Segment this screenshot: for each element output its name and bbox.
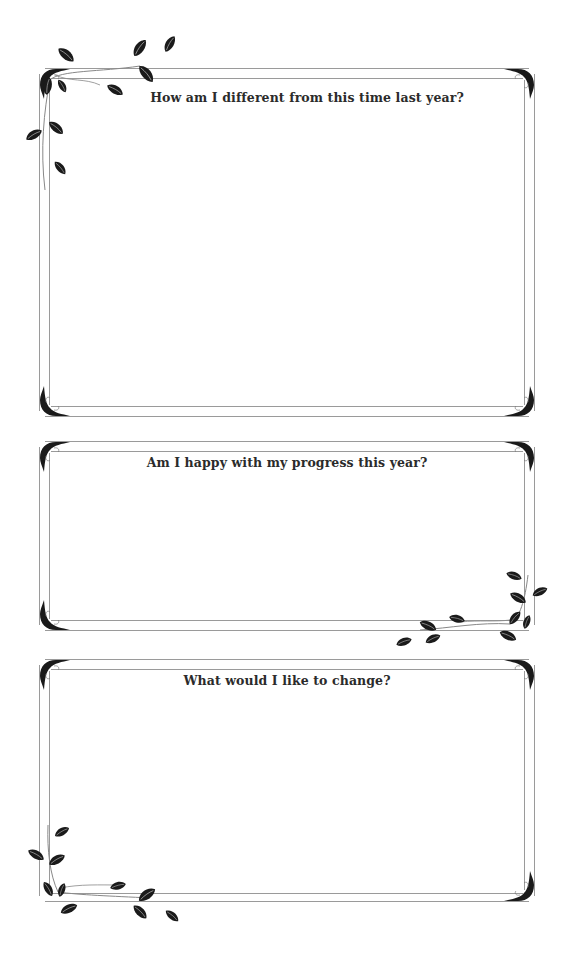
frame-line (45, 630, 529, 631)
frame-line (534, 447, 535, 625)
frame-line (39, 447, 40, 625)
frame-line (45, 441, 529, 442)
frame-line (51, 620, 523, 621)
prompt-box-1: How am I different from this time last y… (39, 68, 535, 417)
prompt-label: How am I different from this time last y… (79, 90, 535, 105)
answer-area[interactable] (53, 695, 521, 888)
frame-line (524, 671, 525, 890)
answer-area[interactable] (53, 112, 521, 403)
frame-line (534, 74, 535, 411)
prompt-label: Am I happy with my progress this year? (39, 455, 535, 470)
frame-line (49, 80, 50, 405)
frame-line (45, 659, 529, 660)
frame-line (45, 68, 529, 69)
frame-line (51, 451, 523, 452)
prompt-box-2: Am I happy with my progress this year? (39, 441, 535, 631)
frame-line (51, 78, 523, 79)
frame-line (49, 453, 50, 619)
frame-line (49, 671, 50, 890)
frame-line (45, 901, 529, 902)
answer-area[interactable] (53, 477, 521, 617)
frame-line (51, 669, 523, 670)
frame-line (524, 80, 525, 405)
frame-line (39, 665, 40, 896)
prompt-box-3: What would I like to change? (39, 659, 535, 902)
frame-line (39, 74, 40, 411)
frame-line (534, 665, 535, 896)
prompt-label: What would I like to change? (39, 673, 535, 688)
frame-line (524, 453, 525, 619)
frame-line (51, 893, 523, 894)
frame-line (51, 406, 523, 407)
frame-line (45, 416, 529, 417)
